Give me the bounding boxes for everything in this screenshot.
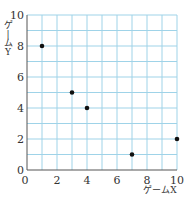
data-points <box>40 44 180 157</box>
data-point <box>70 90 75 95</box>
x-axis-label: ゲームX <box>143 184 177 195</box>
y-tick-label: 2 <box>17 133 24 146</box>
scatter-chart: 0246810 0246810 ゲームX ゲ|ムY <box>0 0 190 202</box>
y-tick-label: 6 <box>17 71 24 84</box>
y-tick-label: 4 <box>17 102 24 115</box>
x-tick-label: 6 <box>114 174 121 187</box>
y-axis-label: ゲ|ムY <box>4 19 13 57</box>
y-tick-labels: 0246810 <box>10 9 24 177</box>
data-point <box>85 106 90 111</box>
data-point <box>40 44 45 49</box>
x-tick-label: 2 <box>54 174 61 187</box>
grid-lines <box>27 15 177 170</box>
data-point <box>130 152 135 157</box>
data-point <box>175 137 180 142</box>
y-tick-label: 0 <box>17 164 24 177</box>
y-tick-label: 8 <box>17 40 24 53</box>
x-tick-label: 4 <box>84 174 91 187</box>
y-axis-label-char: Y <box>4 47 12 57</box>
